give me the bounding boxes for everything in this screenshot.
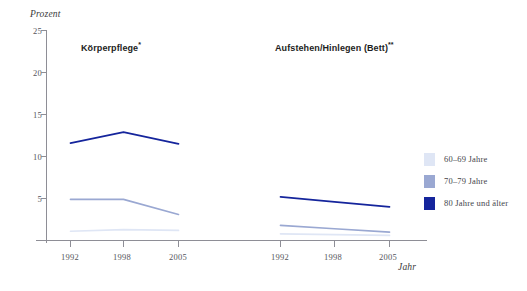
legend-item-80-plus: 80 Jahre und älter [424, 192, 508, 214]
legend-item-60-69: 60–69 Jahre [424, 148, 508, 170]
legend-label-60-69: 60–69 Jahre [444, 154, 488, 164]
series-line-70-79-jahre-panel-1 [71, 199, 179, 214]
series-line-60-69-jahre-panel-2 [281, 234, 390, 236]
legend-swatch-70-79 [424, 175, 435, 188]
plot-area [0, 0, 527, 291]
chart-figure: Prozent Jahr Körperpflege* Aufstehen/Hin… [0, 0, 527, 291]
legend-item-70-79: 70–79 Jahre [424, 170, 508, 192]
legend: 60–69 Jahre 70–79 Jahre 80 Jahre und ält… [424, 148, 508, 214]
series-layer [71, 132, 390, 235]
series-line-80-jahre-und-älter-panel-2 [281, 197, 390, 207]
series-line-70-79-jahre-panel-2 [281, 225, 390, 232]
legend-label-70-79: 70–79 Jahre [444, 176, 488, 186]
legend-swatch-60-69 [424, 153, 435, 166]
series-line-80-jahre-und-älter-panel-1 [71, 132, 179, 144]
legend-swatch-80-plus [424, 197, 435, 210]
legend-label-80-plus: 80 Jahre und älter [444, 198, 508, 208]
series-line-60-69-jahre-panel-1 [71, 230, 179, 232]
